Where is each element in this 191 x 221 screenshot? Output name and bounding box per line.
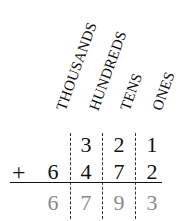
addend2-ones: 2 [142,161,162,183]
column-divider-3 [135,133,136,219]
addend2-tens: 7 [109,161,129,183]
label-tens: TENS [117,71,146,113]
addend1-hundreds: 3 [76,134,96,156]
plus-sign: + [12,161,26,183]
sum-tens: 9 [109,192,129,214]
addend1-ones: 1 [142,134,162,156]
label-ones: ONES [149,69,179,112]
sum-hundreds: 7 [76,192,96,214]
column-divider-1 [70,133,71,219]
column-divider-2 [102,133,103,219]
sum-thousands: 6 [43,192,63,214]
sum-ones: 3 [142,192,162,214]
sum-rule [10,182,162,183]
addend2-hundreds: 4 [76,161,96,183]
addend2-thousands: 6 [43,161,63,183]
addend1-tens: 2 [109,134,129,156]
